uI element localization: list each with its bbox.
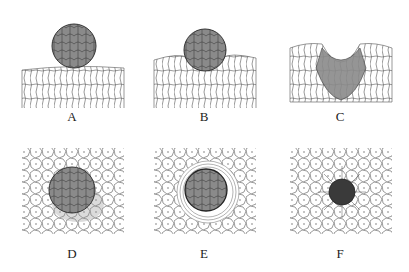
panel-b-illustration	[150, 8, 260, 108]
panel-e-illustration	[150, 146, 260, 246]
panel-label: E	[194, 246, 214, 262]
panel-label: A	[62, 109, 82, 125]
panel-label: C	[330, 109, 350, 125]
panel-d: D	[18, 146, 128, 266]
panel-c-illustration	[286, 8, 396, 108]
panel-f: F	[286, 146, 396, 266]
panel-label: F	[330, 246, 350, 262]
panel-label: B	[194, 109, 214, 125]
panel-f-illustration	[286, 146, 396, 246]
panel-b: B	[150, 8, 260, 128]
panel-a: A	[18, 8, 128, 128]
panel-c: C	[286, 8, 396, 128]
panel-d-illustration	[18, 146, 128, 246]
panel-a-illustration	[18, 8, 128, 108]
panel-e: E	[150, 146, 260, 266]
panel-label: D	[62, 246, 82, 262]
